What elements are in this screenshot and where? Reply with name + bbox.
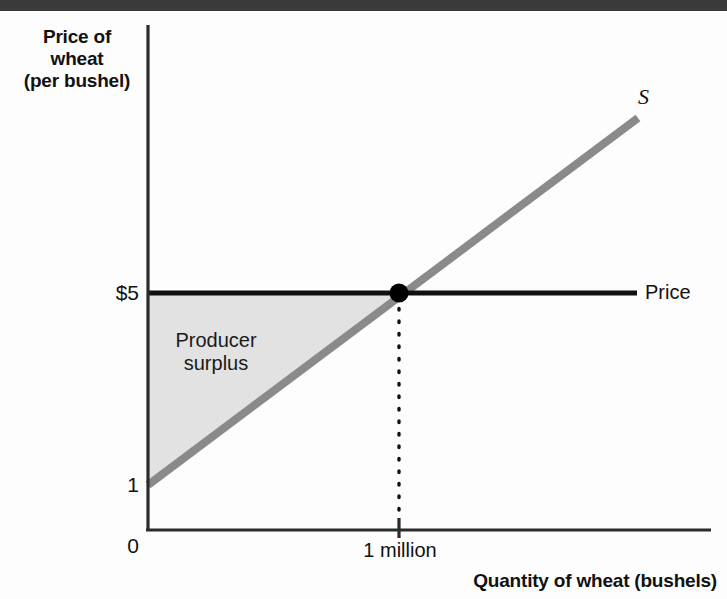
x-axis-title: Quantity of wheat (bushels) [397, 570, 717, 592]
origin-label: 0 [84, 534, 139, 558]
economics-figure: Price of wheat (per bushel) Quantity of … [0, 0, 727, 599]
supply-curve-label: S [638, 84, 649, 110]
price-line-label: Price [645, 281, 691, 304]
y-tick-label-one: 1 [84, 473, 139, 497]
equilibrium-point-marker [390, 284, 409, 303]
y-axis-title: Price of wheat (per bushel) [14, 26, 140, 92]
producer-surplus-label: Producer surplus [160, 329, 272, 375]
x-tick-label-1-million: 1 million [320, 539, 480, 562]
y-tick-label-price: $5 [84, 281, 139, 305]
